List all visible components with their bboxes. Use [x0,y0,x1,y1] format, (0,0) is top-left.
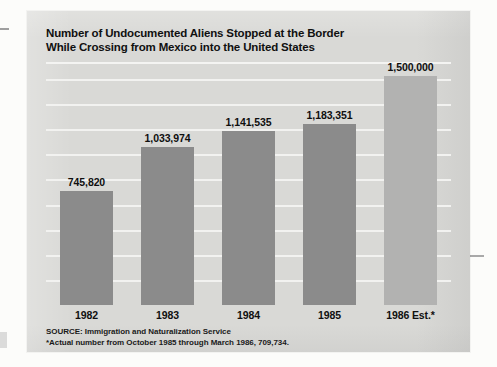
bar-1985 [303,124,356,305]
scan-artifact-left-bottom [0,332,7,348]
chart-card: Number of Undocumented Aliens Stopped at… [27,11,470,352]
bar-1982 [60,191,113,305]
chart-title-line-2: While Crossing from Mexico into the Unit… [46,41,446,55]
bar-1986-est [384,76,437,305]
x-axis-label: 1986 Est.* [370,309,451,321]
x-axis-label: 1985 [289,309,370,321]
bar-value-label: 1,033,974 [127,132,208,144]
bar-1984 [222,131,275,305]
chart-title-line-1: Number of Undocumented Aliens Stopped at… [46,27,446,41]
scan-artifact-right [468,255,484,257]
bar-value-label: 1,183,351 [289,109,370,121]
footnotes: SOURCE: Immigration and Naturalization S… [46,326,446,348]
bar-value-label: 1,141,535 [208,116,289,128]
plot-area: 745,8201,033,9741,141,5351,183,3511,500,… [46,67,451,305]
bars-layer: 745,8201,033,9741,141,5351,183,3511,500,… [46,67,451,305]
bar-1983 [141,147,194,305]
bar-value-label: 1,500,000 [370,61,451,73]
x-axis-label: 1982 [46,309,127,321]
source-note: SOURCE: Immigration and Naturalization S… [46,326,446,337]
x-axis-label: 1984 [208,309,289,321]
scan-artifact-left-top [0,28,9,30]
x-axis-label: 1983 [127,309,208,321]
x-axis-labels: 19821983198419851986 Est.* [46,309,451,323]
bar-value-label: 745,820 [46,176,127,188]
chart-title: Number of Undocumented Aliens Stopped at… [46,27,446,54]
asterisk-note: *Actual number from October 1985 through… [46,337,446,348]
